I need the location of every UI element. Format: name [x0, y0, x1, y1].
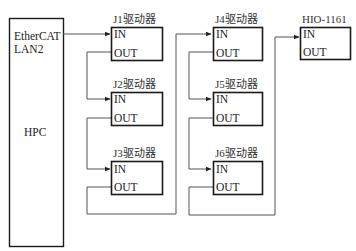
ethercat-port-label: EtherCAT — [14, 30, 61, 42]
node-j2-driver: J2驱动器 IN OUT — [112, 78, 163, 126]
wire-j2-to-j3 — [87, 118, 111, 169]
node-j4-driver: J4驱动器 IN OUT — [214, 13, 263, 61]
in-port-label: IN — [216, 28, 229, 40]
in-port-label: IN — [114, 28, 127, 40]
in-port-label: IN — [216, 163, 229, 175]
out-port-label: OUT — [216, 47, 240, 59]
node-label: J3驱动器 — [113, 147, 156, 159]
ethercat-topology-diagram: EtherCAT LAN2 HPC J1驱动器 IN OUT J2驱动器 IN … — [0, 0, 356, 251]
node-j6-driver: J6驱动器 IN OUT — [214, 147, 263, 195]
wire-j1-to-j2 — [87, 52, 111, 99]
out-port-label: OUT — [114, 47, 138, 59]
node-label: J5驱动器 — [215, 78, 258, 90]
node-label: J6驱动器 — [215, 147, 258, 159]
node-label: HIO-1161 — [302, 13, 347, 25]
wire-j5-to-j6 — [189, 118, 213, 169]
out-port-label: OUT — [114, 112, 138, 124]
out-port-label: OUT — [114, 181, 138, 193]
node-j5-driver: J5驱动器 IN OUT — [214, 78, 263, 126]
out-port-label: OUT — [216, 112, 240, 124]
out-port-label: OUT — [216, 181, 240, 193]
in-port-label: IN — [216, 93, 229, 105]
node-j3-driver: J3驱动器 IN OUT — [112, 147, 163, 195]
node-label: J1驱动器 — [113, 13, 156, 25]
out-port-label: OUT — [303, 46, 327, 58]
node-hio-1161: HIO-1161 IN OUT — [301, 13, 351, 60]
in-port-label: IN — [114, 93, 127, 105]
node-j1-driver: J1驱动器 IN OUT — [112, 13, 163, 61]
lan2-port-label: LAN2 — [14, 43, 44, 55]
node-label: J4驱动器 — [215, 13, 258, 25]
in-port-label: IN — [114, 163, 127, 175]
in-port-label: IN — [303, 28, 316, 40]
hpc-label: HPC — [24, 126, 47, 138]
hpc-controller: EtherCAT LAN2 HPC — [10, 19, 64, 247]
node-label: J2驱动器 — [113, 78, 156, 90]
connections — [63, 34, 299, 215]
wire-j4-to-j5 — [189, 52, 213, 99]
